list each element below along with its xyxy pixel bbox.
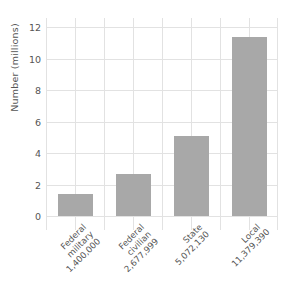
bar-local bbox=[232, 37, 267, 216]
x-axis-tick-label: Federalmilitary1,400,000 bbox=[48, 222, 102, 276]
y-axis-tick-label: 2 bbox=[0, 179, 41, 190]
gridline-vertical bbox=[162, 18, 163, 230]
bar-federal-civilian bbox=[116, 174, 151, 216]
plot-area bbox=[46, 18, 278, 216]
y-axis-tick-label: 12 bbox=[0, 22, 41, 33]
y-axis-tick-label: 10 bbox=[0, 53, 41, 64]
gridline-vertical bbox=[46, 18, 47, 230]
bar-federal-military bbox=[58, 194, 93, 216]
y-axis-tick-label: 4 bbox=[0, 148, 41, 159]
gridline-vertical bbox=[104, 18, 105, 230]
y-axis-tick-label: 6 bbox=[0, 116, 41, 127]
x-axis-tick-label: Local11,379,390 bbox=[222, 222, 269, 269]
x-axis-tick-label: Federalcivilian2,677,999 bbox=[106, 222, 160, 276]
bar-state bbox=[174, 136, 209, 216]
gridline-vertical bbox=[220, 18, 221, 230]
gridline-vertical bbox=[277, 18, 278, 230]
x-axis-tick-label: State5,072,130 bbox=[164, 222, 211, 269]
bar-chart-figure: Number (millions) 024681012 Federalmilit… bbox=[0, 0, 285, 291]
y-axis-tick-label: 0 bbox=[0, 211, 41, 222]
y-axis-tick-label: 8 bbox=[0, 85, 41, 96]
